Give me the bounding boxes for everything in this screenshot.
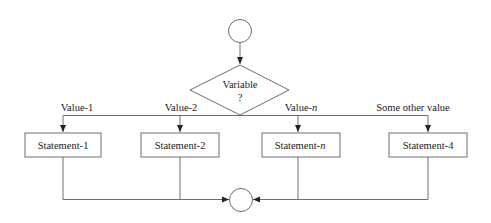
condition-label-1: Value-1 (61, 102, 94, 113)
statement-label-4: Statement-4 (403, 140, 455, 151)
start-node (229, 20, 252, 43)
statement-label-n: Statement-n (275, 140, 326, 151)
condition-label-n: Value-n (285, 102, 318, 113)
decision-node (190, 65, 289, 115)
decision-label-line1: Variable (223, 79, 258, 90)
end-node (230, 189, 253, 212)
condition-label-2: Value-2 (165, 102, 198, 113)
statement-label-2: Statement-2 (155, 140, 206, 151)
decision-label-line2: ? (238, 92, 243, 103)
condition-label-other: Some other value (376, 102, 450, 113)
flowchart-diagram: Variable ? Value-1 Value-2 Value-n Some … (0, 0, 491, 223)
statement-label-1: Statement-1 (38, 140, 89, 151)
